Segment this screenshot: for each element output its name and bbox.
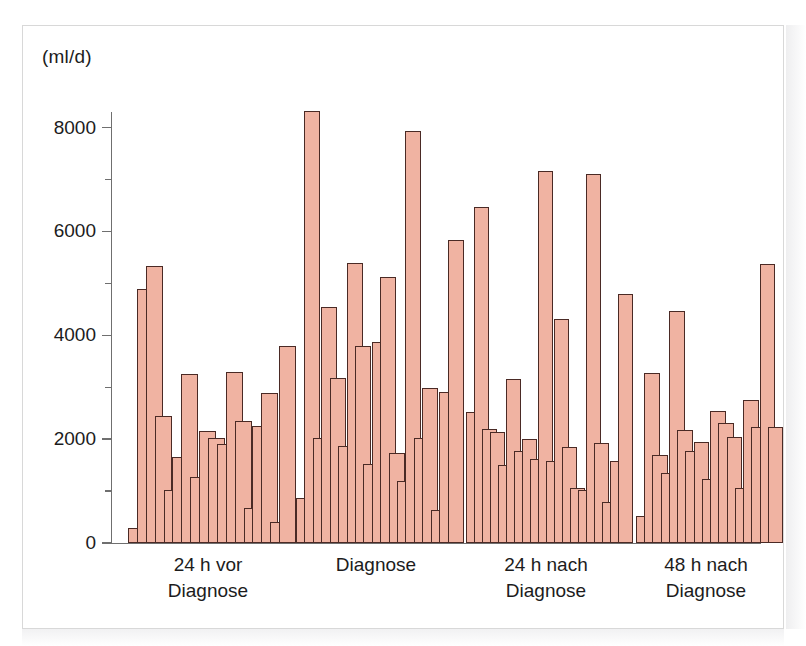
figure-root: (ml/d) 02000400060008000 24 h vorDiagnos… (0, 0, 806, 646)
x-category-label-line1: 24 h nach (504, 554, 587, 575)
x-category-label-line1: 48 h nach (664, 554, 747, 575)
x-category-label-line1: Diagnose (336, 554, 416, 575)
x-category-label-line2: Diagnose (98, 578, 318, 604)
bar (768, 427, 784, 543)
x-category-label-4: 48 h nachDiagnose (596, 552, 806, 604)
x-category-label-line2: Diagnose (596, 578, 806, 604)
bar-group-4 (0, 0, 806, 646)
x-category-label-line1: 24 h vor (174, 554, 243, 575)
plot-area (0, 0, 806, 646)
